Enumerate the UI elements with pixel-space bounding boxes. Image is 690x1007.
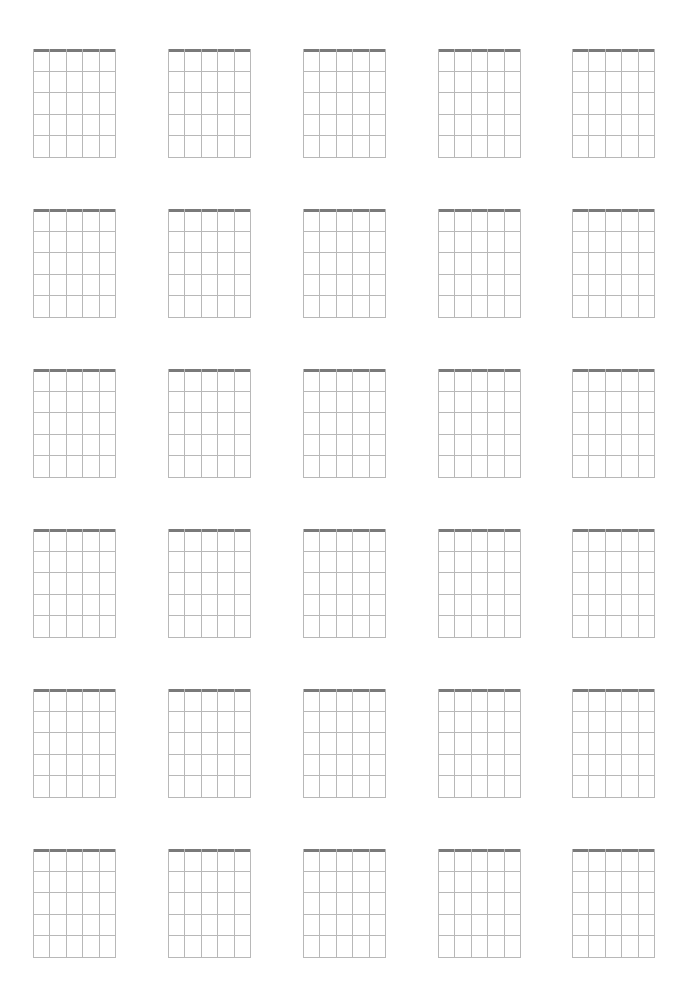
string-line [250, 849, 251, 957]
string-line [454, 209, 455, 317]
nut [572, 849, 655, 852]
nut [438, 689, 521, 692]
string-line [115, 849, 116, 957]
string-line [588, 369, 589, 477]
fret-line [438, 935, 521, 936]
string-line [336, 529, 337, 637]
fret-line [572, 71, 655, 72]
chord-diagram-r1-c3 [303, 49, 385, 157]
fret-line [33, 957, 116, 958]
fret-line [303, 317, 386, 318]
string-line [303, 209, 304, 317]
string-line [605, 209, 606, 317]
fret-line [572, 754, 655, 755]
fret-line [572, 615, 655, 616]
fret-line [168, 295, 251, 296]
string-line [638, 49, 639, 157]
fret-line [168, 732, 251, 733]
string-line [319, 209, 320, 317]
chord-diagram-r1-c5 [572, 49, 654, 157]
string-line [82, 529, 83, 637]
string-line [33, 529, 34, 637]
string-line [234, 369, 235, 477]
string-line [99, 689, 100, 797]
chord-diagram-r1-c4 [438, 49, 520, 157]
string-line [638, 849, 639, 957]
string-line [168, 209, 169, 317]
fret-line [438, 295, 521, 296]
string-line [621, 849, 622, 957]
string-line [303, 689, 304, 797]
fret-line [572, 92, 655, 93]
string-line [438, 689, 439, 797]
string-line [201, 849, 202, 957]
fret-line [303, 551, 386, 552]
string-line [217, 209, 218, 317]
chord-diagram-r2-c4 [438, 209, 520, 317]
fret-line [33, 892, 116, 893]
string-line [250, 369, 251, 477]
string-line [520, 529, 521, 637]
fret-line [572, 114, 655, 115]
string-line [572, 529, 573, 637]
string-line [385, 689, 386, 797]
string-line [487, 689, 488, 797]
fret-line [572, 455, 655, 456]
fret-line [303, 914, 386, 915]
string-line [115, 209, 116, 317]
fret-line [438, 71, 521, 72]
fret-line [303, 615, 386, 616]
string-line [438, 529, 439, 637]
fret-line [33, 412, 116, 413]
string-line [471, 849, 472, 957]
fret-line [572, 274, 655, 275]
string-line [184, 849, 185, 957]
fret-line [438, 412, 521, 413]
fret-line [303, 957, 386, 958]
string-line [336, 369, 337, 477]
fret-line [438, 914, 521, 915]
string-line [638, 369, 639, 477]
string-line [454, 849, 455, 957]
nut [572, 209, 655, 212]
chord-diagram-r5-c5 [572, 689, 654, 797]
string-line [621, 689, 622, 797]
string-line [369, 689, 370, 797]
fret-line [33, 455, 116, 456]
string-line [184, 49, 185, 157]
fret-line [438, 594, 521, 595]
fret-line [33, 295, 116, 296]
fret-line [168, 412, 251, 413]
string-line [336, 49, 337, 157]
fret-line [33, 594, 116, 595]
fret-line [438, 455, 521, 456]
string-line [319, 49, 320, 157]
fret-line [168, 551, 251, 552]
string-line [352, 689, 353, 797]
nut [168, 689, 251, 692]
string-line [250, 689, 251, 797]
string-line [201, 529, 202, 637]
fret-line [303, 252, 386, 253]
chord-diagram-r5-c4 [438, 689, 520, 797]
nut [572, 49, 655, 52]
string-line [115, 529, 116, 637]
fret-line [168, 957, 251, 958]
string-line [352, 369, 353, 477]
fret-line [438, 317, 521, 318]
chord-diagram-r4-c3 [303, 529, 385, 637]
chord-diagram-r5-c1 [33, 689, 115, 797]
fret-line [33, 754, 116, 755]
string-line [654, 849, 655, 957]
fret-line [438, 871, 521, 872]
fret-line [168, 135, 251, 136]
string-line [184, 209, 185, 317]
nut [438, 209, 521, 212]
fret-line [572, 231, 655, 232]
string-line [572, 849, 573, 957]
fret-line [33, 732, 116, 733]
fret-line [168, 594, 251, 595]
string-line [217, 369, 218, 477]
nut [33, 529, 116, 532]
fret-line [303, 114, 386, 115]
